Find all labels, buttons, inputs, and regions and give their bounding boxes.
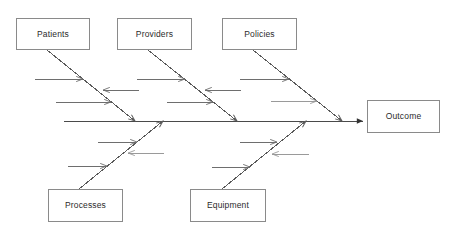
category-box-policies[interactable]: Policies	[222, 18, 297, 50]
category-bone-policies	[253, 50, 342, 121]
category-bone-processes	[79, 121, 163, 189]
category-bone-patients	[47, 50, 135, 121]
effect-box-outcome[interactable]: Outcome	[367, 100, 440, 133]
fishbone-diagram-canvas: Patients Providers Policies Processes Eq…	[0, 0, 456, 233]
category-label-processes: Processes	[65, 201, 106, 210]
category-label-policies: Policies	[244, 30, 275, 39]
category-box-processes[interactable]: Processes	[48, 189, 123, 222]
category-label-providers: Providers	[136, 30, 173, 39]
category-box-equipment[interactable]: Equipment	[190, 189, 266, 222]
category-label-equipment: Equipment	[207, 201, 249, 210]
category-bone-equipment	[222, 121, 306, 189]
category-box-patients[interactable]: Patients	[16, 18, 90, 50]
category-box-providers[interactable]: Providers	[117, 18, 192, 50]
effect-label: Outcome	[386, 112, 422, 121]
category-bone-providers	[148, 50, 237, 121]
category-label-patients: Patients	[37, 30, 69, 39]
